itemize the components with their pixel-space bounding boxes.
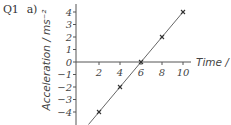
x-tick-label: 2	[95, 67, 102, 78]
y-tick-label: −2	[57, 82, 72, 93]
data-line	[89, 12, 184, 125]
y-tick-label: −3	[57, 94, 72, 105]
y-tick-label: 3	[66, 19, 72, 30]
y-tick-label: 1	[66, 44, 72, 55]
acceleration-time-chart: 43210−1−2−3−4246810Time / sAcceleration …	[0, 0, 231, 125]
x-axis-title: Time / s	[196, 56, 231, 68]
x-tick-label: 6	[138, 67, 145, 78]
x-tick-label: 4	[116, 67, 123, 78]
y-tick-label: −4	[57, 107, 72, 118]
y-axis-title: Acceleration / ms⁻²	[40, 9, 52, 112]
y-tick-label: −1	[57, 69, 72, 80]
x-tick-label: 8	[159, 67, 165, 78]
y-tick-label: 4	[65, 7, 72, 18]
x-tick-label: 10	[177, 67, 190, 78]
y-tick-label: 2	[65, 32, 72, 43]
y-tick-label: 0	[66, 57, 73, 68]
